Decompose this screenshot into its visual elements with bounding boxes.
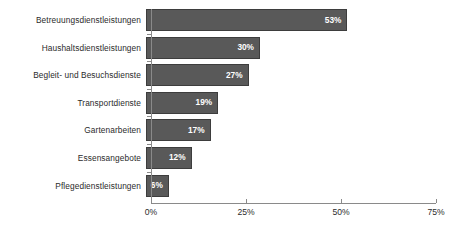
chart-plot-area: Betreuungsdienstleistungen 53% Haushalts…	[0, 9, 459, 203]
y-axis-tick	[147, 34, 151, 35]
chart-bar-row: Betreuungsdienstleistungen 53%	[0, 9, 459, 31]
bar-track: 19%	[146, 92, 459, 114]
bar-track: 12%	[146, 147, 459, 169]
y-axis-tick	[147, 89, 151, 90]
y-axis-line	[151, 9, 152, 203]
x-axis-tick-label: 25%	[237, 207, 254, 217]
y-axis-tick	[147, 172, 151, 173]
chart-bar-row: Gartenarbeiten 17%	[0, 119, 459, 141]
x-axis-tick	[246, 199, 247, 203]
chart-bar-row: Haushaltsdienstleistungen 30%	[0, 37, 459, 59]
y-axis-tick	[147, 61, 151, 62]
y-axis-tick	[147, 116, 151, 117]
bar-track: 6%	[146, 175, 459, 197]
x-axis-tick	[341, 199, 342, 203]
bar-value-label: 27%	[226, 71, 248, 80]
category-label: Gartenarbeiten	[0, 125, 146, 135]
x-axis-tick-label: 0%	[145, 207, 157, 217]
bar-track: 53%	[146, 9, 459, 31]
x-axis-tick	[436, 199, 437, 203]
bar-track: 17%	[146, 119, 459, 141]
category-label: Pflegedienstleistungen	[0, 181, 146, 191]
bar-value-label: 53%	[325, 16, 347, 25]
chart-bar-row: Essensangebote 12%	[0, 147, 459, 169]
bar-track: 30%	[146, 37, 459, 59]
x-axis-tick-label: 75%	[427, 207, 444, 217]
bar-value-label: 30%	[237, 43, 259, 52]
bar-begleit-und-besuchsdienste: 27%	[146, 64, 249, 86]
category-label: Betreuungsdienstleistungen	[0, 15, 146, 25]
x-axis-tick-label: 50%	[332, 207, 349, 217]
bar-betreuungsdienstleistungen: 53%	[146, 9, 347, 31]
y-axis-tick	[147, 144, 151, 145]
bar-value-label: 17%	[188, 126, 210, 135]
chart-bar-row: Transportdienste 19%	[0, 92, 459, 114]
chart-bar-row: Begleit- und Besuchsdienste 27%	[0, 64, 459, 86]
bar-haushaltsdienstleistungen: 30%	[146, 37, 260, 59]
bar-chart: Betreuungsdienstleistungen 53% Haushalts…	[0, 0, 459, 231]
bar-value-label: 12%	[169, 153, 191, 162]
x-axis-line	[151, 203, 436, 204]
category-label: Transportdienste	[0, 98, 146, 108]
bar-transportdienste: 19%	[146, 92, 218, 114]
category-label: Essensangebote	[0, 153, 146, 163]
bar-value-label: 6%	[151, 181, 168, 190]
bar-gartenarbeiten: 17%	[146, 119, 211, 141]
category-label: Begleit- und Besuchsdienste	[0, 70, 146, 80]
bar-track: 27%	[146, 64, 459, 86]
bar-essensangebote: 12%	[146, 147, 192, 169]
bar-value-label: 19%	[196, 98, 218, 107]
x-axis-tick	[151, 199, 152, 203]
category-label: Haushaltsdienstleistungen	[0, 43, 146, 53]
bar-pflegedienstleistungen: 6%	[146, 175, 169, 197]
chart-bar-row: Pflegedienstleistungen 6%	[0, 175, 459, 197]
